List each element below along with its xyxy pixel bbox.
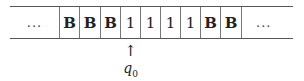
head-state-label: q0 [123,60,138,79]
tape-cell: B [200,7,220,38]
tape-cell: B [59,7,79,38]
tape-cell: B [100,7,120,38]
tape-cell: 1 [140,7,160,38]
head-arrow-icon: ↑ [124,44,137,58]
tape-cell: B [220,7,241,38]
state-subscript: 0 [132,69,138,79]
tape-head: ↑ q0 [130,44,131,79]
tape-cell: B [79,7,100,38]
tape-cell-ellipsis-left: ... [10,7,59,38]
tape-bottom-border [10,38,293,39]
tape: ... B B B 1 1 1 1 B B ... [10,6,293,39]
state-symbol: q [123,60,132,76]
tape-cell: 1 [160,7,180,38]
tape-cell: 1 [180,7,200,38]
tape-cell-ellipsis-right: ... [241,7,293,38]
tape-cell-head: 1 [120,7,140,38]
